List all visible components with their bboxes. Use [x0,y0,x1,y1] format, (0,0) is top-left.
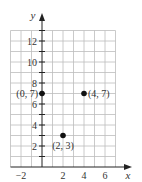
data-point [39,91,45,97]
y-tick-label: 10 [27,57,37,68]
y-tick-label: 4 [32,120,37,131]
coordinate-plane-chart: 24681012−2246 (0, 7)(4, 7)(2, 3) x y [0,0,142,182]
y-tick-label: 12 [27,36,37,47]
x-tick-label: 6 [103,170,108,181]
tick-labels: 24681012−2246 [16,36,108,182]
x-tick-label: 2 [61,170,66,181]
data-point [60,133,66,139]
y-tick-label: 8 [32,78,37,89]
y-axis-label: y [30,9,36,21]
y-tick-label: 2 [32,141,37,152]
y-axis-arrow-icon [39,13,45,21]
y-tick-label: 6 [32,99,37,110]
data-point [81,91,87,97]
data-point-label: (2, 3) [52,140,74,152]
x-tick-label: 4 [82,170,87,181]
data-point-label: (4, 7) [88,88,110,100]
data-point-label: (0, 7) [16,88,38,100]
x-tick-label: −2 [16,170,27,181]
x-axis-label: x [125,169,131,181]
